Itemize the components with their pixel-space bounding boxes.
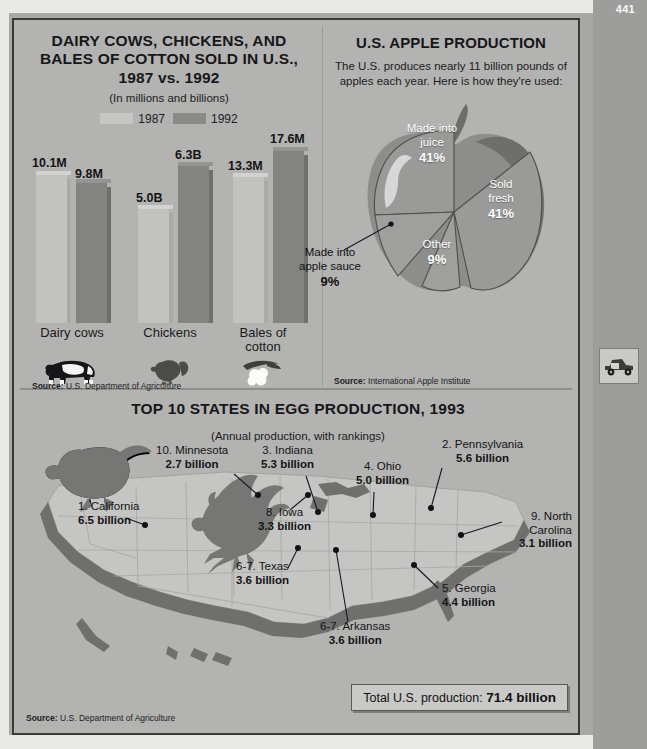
map-label-pennsylvania-name: 2. Pennsylvania: [442, 438, 523, 450]
map-source: Source: U.S. Department of Agriculture: [26, 713, 175, 723]
legend-label-1992: 1992: [211, 112, 238, 126]
page-number: 441: [616, 3, 635, 15]
apple-slice-other-name: Other: [423, 238, 452, 250]
bar-chart-source-prefix: Source:: [32, 381, 64, 391]
apple-title: U.S. APPLE PRODUCTION: [324, 26, 578, 51]
apple-slice-juice-line2: juice: [420, 136, 444, 148]
map-section: TOP 10 STATES IN EGG PRODUCTION, 1993 (A…: [18, 392, 578, 733]
apple-slice-label-sold-fresh: Sold fresh 41%: [470, 178, 532, 221]
apple-slice-fresh-line2: fresh: [488, 192, 514, 204]
map-label-ohio-value: 5.0 billion: [356, 474, 409, 488]
legend-item-1992: 1992: [173, 112, 238, 126]
apple-slice-label-other: Other 9%: [408, 238, 466, 267]
apple-pie-chart: Made into juice 41% Sold fresh 41% Other…: [324, 96, 578, 326]
map-label-minnesota: 10. Minnesota 2.7 billion: [156, 444, 228, 471]
map-source-text: U.S. Department of Agriculture: [60, 713, 175, 723]
vintage-car-icon[interactable]: [599, 348, 639, 384]
infographic-panel: DAIRY COWS, CHICKENS, AND BALES OF COTTO…: [12, 18, 580, 735]
map-label-iowa: 8. Iowa 3.3 billion: [258, 506, 311, 533]
map-label-california-value: 6.5 billion: [78, 514, 139, 528]
apple-slice-fresh-pct: 41%: [470, 206, 532, 222]
bar-chart-legend: 1987 1992: [18, 112, 320, 126]
map-label-ohio-name: 4. Ohio: [364, 460, 401, 472]
column-divider: [322, 26, 323, 386]
bar-chart-subtitle: (In millions and billions): [18, 92, 320, 104]
apple-source: Source: International Apple Institute: [334, 376, 471, 386]
bar-category-cotton: Bales ofcotton: [223, 326, 303, 353]
map-label-arkansas: 6-7. Arkansas 3.6 billion: [320, 620, 390, 647]
map-label-north-carolina-name1: 9. North: [531, 510, 572, 522]
page-margin-bottom: [0, 735, 593, 749]
bar-category-chickens: Chickens: [130, 326, 210, 340]
bar-value-1987-cotton: 13.3M: [228, 159, 263, 173]
total-production-label: Total U.S. production:: [363, 691, 483, 705]
cotton-boll-icon: [226, 356, 296, 386]
bar-value-1992-dairy-cows: 9.8M: [75, 167, 103, 181]
apple-slice-fresh-line1: Sold: [489, 178, 512, 190]
bar-value-1987-dairy-cows: 10.1M: [32, 156, 67, 170]
map-source-prefix: Source:: [26, 713, 58, 723]
map-label-minnesota-name: 10. Minnesota: [156, 444, 228, 456]
bar-chart-title-line1: DAIRY COWS, CHICKENS, AND: [24, 32, 314, 50]
map-label-texas-name: 6-7. Texas: [236, 560, 289, 572]
page-root: 441 DAIRY COWS, CHICKENS, AND BALES OF C…: [0, 0, 647, 749]
bar-1992-dairy-cows: [76, 183, 107, 323]
apple-slice-sauce-pct: 9%: [282, 274, 378, 290]
bar-value-1987-chickens: 5.0B: [136, 191, 162, 205]
bar-group-chickens: [138, 151, 214, 323]
legend-swatch-1987: [100, 113, 133, 124]
bar-1992-cotton: [273, 151, 304, 323]
map-canvas: 1. California 6.5 billion 2. Pennsylvani…: [18, 440, 578, 705]
bar-chart-source: Source: U.S. Department of Agriculture: [32, 381, 181, 391]
bar-chart-title-line2: BALES OF COTTON SOLD IN U.S.,: [24, 50, 314, 68]
map-label-indiana: 3. Indiana 5.3 billion: [261, 444, 314, 471]
map-label-texas-value: 3.6 billion: [236, 574, 289, 588]
page-margin-left: [0, 0, 9, 749]
apple-slice-sauce-line2: apple sauce: [299, 260, 361, 272]
apple-section: U.S. APPLE PRODUCTION The U.S. produces …: [324, 26, 578, 384]
map-label-georgia-name: 5. Georgia: [442, 582, 496, 594]
map-label-ohio: 4. Ohio 5.0 billion: [356, 460, 409, 487]
map-label-north-carolina-name2: Carolina: [529, 524, 572, 536]
apple-source-prefix: Source:: [334, 376, 366, 386]
map-label-north-carolina: 9. North Carolina 3.1 billion: [488, 510, 572, 551]
apple-slice-sauce-line1: Made into: [305, 246, 356, 258]
apple-source-text: International Apple Institute: [368, 376, 471, 386]
apple-slice-label-apple-sauce: Made into apple sauce 9%: [282, 246, 378, 289]
map-label-iowa-name: 8. Iowa: [266, 506, 303, 518]
bar-1987-chickens: [138, 209, 169, 323]
bar-chart-source-text: U.S. Department of Agriculture: [66, 381, 181, 391]
apple-lede: The U.S. produces nearly 11 billion poun…: [324, 59, 578, 89]
apple-slice-juice-line1: Made into: [407, 122, 458, 134]
map-label-california-name: 1. California: [78, 500, 139, 512]
bar-value-1992-chickens: 6.3B: [175, 148, 201, 162]
apple-lede-line2: apples each year. Here is how they're us…: [330, 74, 572, 89]
map-label-pennsylvania-value: 5.6 billion: [442, 452, 523, 466]
total-production-badge: Total U.S. production: 71.4 billion: [351, 684, 568, 711]
bar-group-cotton: [233, 151, 309, 323]
map-label-minnesota-value: 2.7 billion: [156, 458, 228, 472]
apple-slice-juice-pct: 41%: [386, 150, 478, 166]
map-label-pennsylvania: 2. Pennsylvania 5.6 billion: [442, 438, 523, 465]
legend-item-1987: 1987: [100, 112, 165, 126]
bar-chart-title-line3: 1987 vs. 1992: [24, 69, 314, 87]
map-label-georgia-value: 4.4 billion: [442, 596, 496, 610]
bar-chart-title: DAIRY COWS, CHICKENS, AND BALES OF COTTO…: [18, 26, 320, 87]
legend-label-1987: 1987: [138, 112, 165, 126]
bar-chart-section: DAIRY COWS, CHICKENS, AND BALES OF COTTO…: [18, 26, 320, 384]
map-label-north-carolina-value: 3.1 billion: [488, 537, 572, 551]
apple-lede-line1: The U.S. produces nearly 11 billion poun…: [330, 59, 572, 74]
legend-swatch-1992: [173, 113, 206, 124]
bar-value-1992-cotton: 17.6M: [270, 132, 305, 146]
bar-1992-chickens: [178, 166, 209, 323]
map-label-texas: 6-7. Texas 3.6 billion: [236, 560, 289, 587]
apple-slice-label-juice: Made into juice 41%: [386, 122, 478, 165]
map-label-georgia: 5. Georgia 4.4 billion: [442, 582, 496, 609]
map-label-iowa-value: 3.3 billion: [258, 520, 311, 534]
map-title: TOP 10 STATES IN EGG PRODUCTION, 1993: [18, 392, 578, 418]
total-production-value: 71.4 billion: [486, 690, 556, 705]
bar-category-dairy-cows: Dairy cows: [32, 326, 112, 340]
bar-groups: [28, 151, 314, 323]
map-label-indiana-value: 5.3 billion: [261, 458, 314, 472]
map-label-arkansas-name: 6-7. Arkansas: [320, 620, 390, 632]
